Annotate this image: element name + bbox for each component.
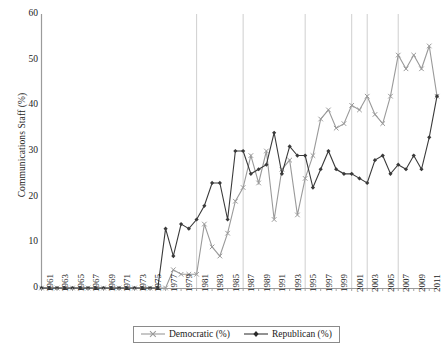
x-tick-label: 1963 [61, 274, 70, 292]
x-tick-label: 1977 [170, 274, 179, 292]
x-tick-label: 2001 [356, 274, 365, 292]
x-axis-ticks: 1961196319651967196919711973197519771979… [0, 0, 444, 351]
legend-entry-republican: Republican (%) [244, 329, 332, 339]
x-tick-label: 1991 [278, 274, 287, 292]
x-tick-label: 2003 [371, 274, 380, 292]
x-tick-label: 1969 [108, 274, 117, 292]
x-tick-label: 2005 [387, 274, 396, 292]
x-tick-label: 1999 [340, 274, 349, 292]
x-tick-label: 1997 [325, 274, 334, 292]
chart-figure: Communications Staff (%) 0102030405060 1… [0, 0, 444, 351]
x-tick-label: 1983 [216, 274, 225, 292]
x-tick-label: 1961 [46, 274, 55, 292]
legend-label-democratic: Democratic (%) [169, 329, 230, 339]
x-tick-label: 1989 [263, 274, 272, 292]
x-tick-label: 1987 [247, 274, 256, 292]
x-tick-label: 2009 [418, 274, 427, 292]
x-tick-label: 1975 [154, 274, 163, 292]
x-tick-label: 1965 [77, 274, 86, 292]
x-tick-label: 1967 [92, 274, 101, 292]
x-tick-label: 1973 [139, 274, 148, 292]
legend-marker-democratic-icon [141, 329, 165, 339]
x-tick-label: 2011 [433, 274, 442, 292]
legend-marker-republican-icon [244, 329, 268, 339]
x-tick-label: 2007 [402, 274, 411, 292]
x-tick-label: 1979 [185, 274, 194, 292]
legend-entry-democratic: Democratic (%) [141, 329, 230, 339]
x-tick-label: 1981 [201, 274, 210, 292]
x-tick-label: 1971 [123, 274, 132, 292]
x-tick-label: 1985 [232, 274, 241, 292]
x-tick-label: 1993 [294, 274, 303, 292]
legend-label-republican: Republican (%) [272, 329, 332, 339]
chart-legend: Democratic (%) Republican (%) [133, 326, 340, 343]
x-tick-label: 1995 [309, 274, 318, 292]
